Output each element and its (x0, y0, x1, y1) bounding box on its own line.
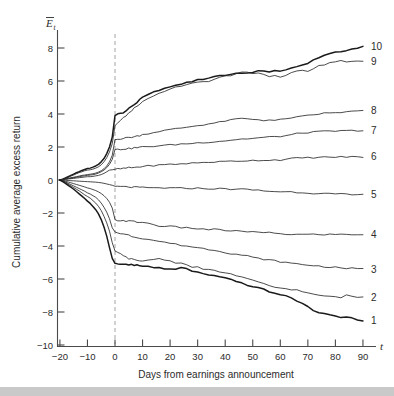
x-tick-label: 20 (165, 351, 176, 362)
x-tick-label: 30 (192, 351, 203, 362)
y-tick-label: −4 (42, 241, 53, 252)
series-label-10: 10 (371, 41, 383, 52)
series-label-9: 9 (371, 56, 377, 67)
x-tick-label: 50 (247, 351, 258, 362)
series-lines (60, 46, 363, 321)
x-tick-label: 10 (137, 351, 148, 362)
cumulative-excess-return-chart: 86420−2−4−6−8−10 −20−1001020304050607080… (0, 0, 394, 396)
series-line-4 (60, 180, 363, 235)
y-axis-ticks: 86420−2−4−6−8−10 (37, 43, 65, 351)
x-tick-label: −10 (79, 351, 95, 362)
y-tick-label: −2 (42, 208, 53, 219)
y-tick-label: 6 (48, 76, 53, 87)
y-tick-label: 0 (48, 175, 53, 186)
y-tick-label: 2 (48, 142, 53, 153)
y-axis-title: Cumulative average excess return (11, 116, 22, 268)
y-tick-label: 4 (48, 109, 53, 120)
x-axis-symbol: t (380, 340, 384, 352)
x-axis-ticks: −20−100102030405060708090 (52, 340, 368, 363)
x-tick-label: 70 (303, 351, 314, 362)
y-axis-symbol-subscript: t (54, 23, 57, 32)
x-tick-label: −20 (52, 351, 68, 362)
x-axis-title: Days from earnings announcement (138, 369, 294, 380)
series-label-2: 2 (371, 292, 377, 303)
series-line-5 (60, 180, 363, 195)
y-tick-label: −8 (42, 307, 53, 318)
chart-figure: 86420−2−4−6−8−10 −20−1001020304050607080… (0, 0, 394, 396)
x-tick-label: 60 (275, 351, 286, 362)
series-end-labels: 10987654321 (371, 41, 383, 326)
series-label-5: 5 (371, 189, 377, 200)
x-tick-label: 90 (358, 351, 369, 362)
y-tick-label: 8 (48, 43, 53, 54)
y-axis-symbol-letter: E (45, 17, 53, 29)
x-tick-label: 40 (220, 351, 231, 362)
bottom-gray-band (0, 387, 394, 396)
series-label-6: 6 (371, 151, 377, 162)
series-label-4: 4 (371, 229, 377, 240)
y-tick-label: −10 (37, 340, 53, 351)
series-label-3: 3 (371, 264, 377, 275)
x-tick-label: 0 (112, 351, 117, 362)
series-line-8 (60, 110, 363, 180)
y-tick-label: −6 (42, 274, 53, 285)
series-label-8: 8 (371, 105, 377, 116)
series-label-1: 1 (371, 315, 377, 326)
x-tick-label: 80 (330, 351, 341, 362)
series-label-7: 7 (371, 125, 377, 136)
y-axis-symbol: E t (45, 17, 57, 32)
